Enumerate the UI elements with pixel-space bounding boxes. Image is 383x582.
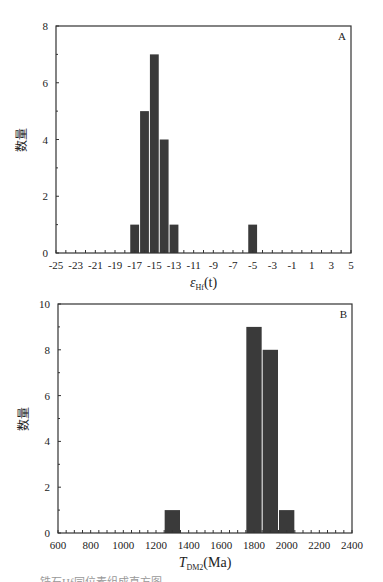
y-tick-label: 8 <box>45 344 51 356</box>
x-tick-label: -15 <box>147 259 162 271</box>
x-tick-label: -17 <box>127 259 142 271</box>
x-tick-label: -5 <box>248 259 258 271</box>
histogram-bar <box>246 327 261 533</box>
chart-a: -25-23-21-19-17-15-13-11-9-7-5-3-1135024… <box>0 0 383 290</box>
x-tick-label: 1000 <box>112 539 135 551</box>
y-tick-label: 0 <box>45 527 51 539</box>
histogram-bar <box>130 225 139 253</box>
x-axis-label: εHf(t) <box>190 275 218 290</box>
x-tick-label: -1 <box>287 259 296 271</box>
x-tick-label: -9 <box>209 259 219 271</box>
histogram-bar <box>170 225 179 253</box>
x-tick-label: 2400 <box>341 539 364 551</box>
x-tick-label: -23 <box>68 259 83 271</box>
histogram-bar <box>140 111 149 253</box>
chart-b-panel: 6008001000120014001600180020002200240002… <box>0 290 383 574</box>
x-tick-label: -25 <box>49 259 64 271</box>
x-tick-label: 600 <box>50 539 67 551</box>
x-tick-label: 3 <box>329 259 335 271</box>
histogram-bar <box>279 510 294 533</box>
x-tick-label: -19 <box>108 259 123 271</box>
x-tick-label: 1800 <box>243 539 266 551</box>
figure-caption: 锆石Hf同位素组成直方图 <box>40 574 360 582</box>
x-tick-label: -11 <box>187 259 201 271</box>
y-tick-label: 4 <box>43 134 49 146</box>
x-tick-label: 5 <box>348 259 354 271</box>
y-axis-label: 数量 <box>14 128 29 152</box>
histogram-bar <box>165 510 180 533</box>
histogram-bar <box>160 140 169 254</box>
panel-label: B <box>340 308 347 320</box>
x-tick-label: 800 <box>82 539 99 551</box>
y-tick-label: 10 <box>39 298 51 310</box>
y-axis-label: 数量 <box>16 407 31 431</box>
x-tick-label: 1600 <box>210 539 233 551</box>
x-tick-label: 1 <box>309 259 315 271</box>
x-tick-label: 2000 <box>276 539 299 551</box>
y-tick-label: 8 <box>43 20 49 32</box>
x-tick-label: -13 <box>167 259 182 271</box>
y-tick-label: 6 <box>45 390 51 402</box>
histogram-bar <box>150 54 159 253</box>
histogram-bar <box>248 225 257 253</box>
y-tick-label: 6 <box>43 77 49 89</box>
y-tick-label: 4 <box>45 435 51 447</box>
y-tick-label: 2 <box>43 190 49 202</box>
chart-a-panel: -25-23-21-19-17-15-13-11-9-7-5-3-1135024… <box>0 0 383 290</box>
x-tick-label: -21 <box>88 259 103 271</box>
x-tick-label: -7 <box>228 259 238 271</box>
x-tick-label: 2200 <box>308 539 331 551</box>
x-tick-label: 1400 <box>178 539 201 551</box>
y-tick-label: 0 <box>43 247 49 259</box>
x-axis-label: TDM2(Ma) <box>179 555 232 572</box>
y-tick-label: 2 <box>45 481 51 493</box>
histogram-bar <box>263 350 278 533</box>
plot-frame <box>58 304 352 533</box>
chart-b: 6008001000120014001600180020002200240002… <box>0 290 383 574</box>
panel-label: A <box>338 30 346 42</box>
x-tick-label: 1200 <box>145 539 168 551</box>
plot-frame <box>56 26 351 253</box>
x-tick-label: -3 <box>268 259 278 271</box>
